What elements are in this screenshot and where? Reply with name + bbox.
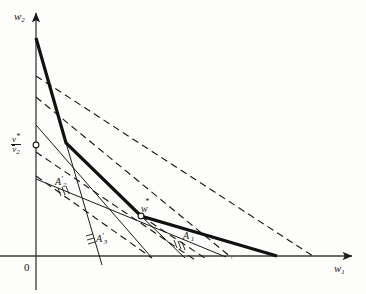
region-label-a3: A'3: [96, 233, 107, 246]
y-intercept-denominator: v2: [11, 145, 21, 156]
x-axis-label-sub: 1: [341, 268, 345, 276]
solid-line-shallow: [36, 179, 226, 257]
dashed-line-4: [36, 176, 152, 258]
thick-envelope-polyline: [36, 38, 277, 256]
y-intercept-numerator-sup: *: [16, 132, 20, 141]
diagram-svg: [0, 0, 366, 294]
origin-label: 0: [24, 262, 30, 273]
optimal-point-main: w: [141, 203, 148, 214]
y-intercept-label: v* v2: [11, 133, 21, 156]
figure-canvas: w2 w1 0 * w v* v2 A'1 A'2 A'3: [0, 0, 366, 294]
axes-group: [0, 13, 352, 290]
y-axis-label-sub: 2: [21, 16, 25, 24]
dashed-lines-group: [36, 76, 313, 260]
dashed-line-5: [141, 216, 205, 258]
y-intercept-denominator-sub: 2: [16, 148, 20, 156]
region-label-a2: A'2: [55, 176, 66, 189]
dashed-line-3: [36, 152, 195, 260]
x-axis-label: w1: [334, 263, 345, 276]
region-label-a1-sub: 1: [191, 235, 195, 243]
region-label-a2-sub: 2: [63, 181, 67, 189]
region-label-a3-sub: 3: [104, 238, 108, 246]
optimal-point-label: * w: [141, 199, 148, 220]
y-intercept-marker: [33, 142, 39, 148]
region-label-a1: A'1: [183, 230, 194, 243]
dashed-line-1: [36, 76, 313, 256]
solid-lines-group: [36, 125, 226, 265]
y-axis-label: w2: [14, 11, 25, 24]
